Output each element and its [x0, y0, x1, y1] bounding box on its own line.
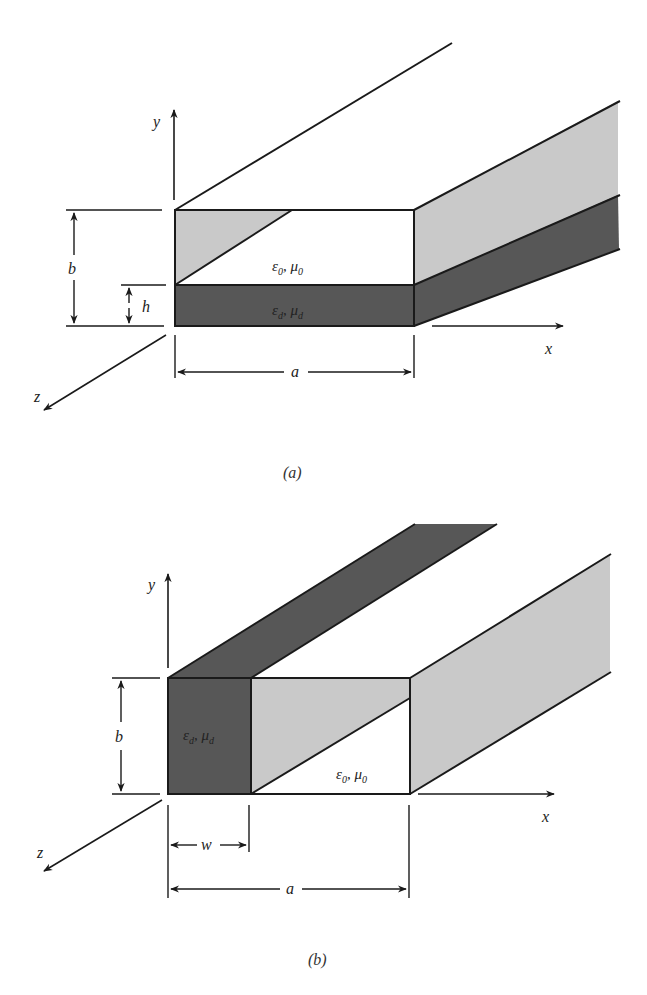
x-axis-label: x — [541, 808, 549, 825]
dim-a-label: a — [286, 880, 294, 897]
y-axis-label: y — [146, 576, 156, 594]
dim-w-label: w — [201, 836, 212, 853]
caption-b: (b) — [308, 951, 327, 969]
x-axis-label: x — [544, 340, 552, 357]
z-axis — [44, 335, 166, 410]
figure-a: ε0, μ0 εd, μd y x z b h a (a) — [33, 43, 620, 482]
right-face-air-region — [410, 554, 610, 794]
z-axis — [44, 800, 162, 871]
y-axis-label: y — [151, 113, 161, 131]
slab-top-left-edge — [168, 524, 415, 678]
caption-a: (a) — [283, 464, 302, 482]
dim-h-label: h — [142, 298, 150, 315]
waveguide-diagram: ε0, μ0 εd, μd y x z b h a (a) — [0, 0, 647, 995]
z-axis-label: z — [36, 844, 44, 861]
z-axis-label: z — [33, 388, 41, 405]
waveguide-top-left-edge — [175, 43, 452, 210]
dim-a-label: a — [291, 363, 299, 380]
dim-b-label: b — [115, 728, 123, 745]
figure-b: εd, μd ε0, μ0 y x z b w a (b) — [36, 524, 611, 969]
dim-b-label: b — [68, 260, 76, 277]
